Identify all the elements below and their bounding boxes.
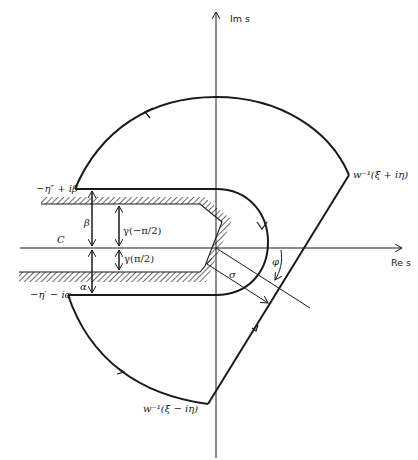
contour-diagram <box>0 0 418 460</box>
gamma-neg-label: γ(−π/2) <box>123 226 161 236</box>
gamma-pos-label: γ(π/2) <box>124 254 154 264</box>
point-lower-right-label: w⁻¹(ξ − iη) <box>143 404 198 414</box>
point-upper-right-label: w⁻¹(ξ + iη) <box>353 170 408 180</box>
alpha-label: α <box>80 282 87 292</box>
direction-arrows <box>117 108 267 374</box>
beta-label: β <box>84 218 90 228</box>
point-upper-left-label: −η″ + iβ <box>36 184 78 194</box>
phi-label: φ <box>272 257 279 267</box>
sigma-line <box>207 248 310 308</box>
hatched-region <box>19 197 232 282</box>
sigma-label: σ <box>229 270 236 280</box>
point-lower-left-label: −η′ − iα <box>30 290 71 300</box>
contour-label: C <box>57 235 65 245</box>
contour-path <box>68 97 349 404</box>
real-axis-label: Re s <box>391 258 411 268</box>
imaginary-axis-label: Im s <box>230 14 250 24</box>
